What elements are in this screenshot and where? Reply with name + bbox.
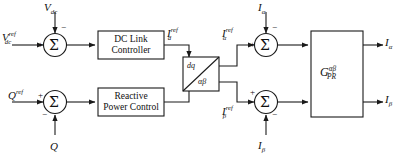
signal-label-vdc-feedback: Vdc (44, 2, 57, 16)
signal-label-q-ref: Qref (8, 89, 23, 101)
signal-label-ibeta-ref: Irefβ (222, 105, 226, 120)
ialpharef-superscript: ref (226, 26, 233, 33)
summing-junction-vdc-symbol: Σ (49, 38, 59, 52)
signal-label-ialpha-output: Iα (385, 37, 392, 51)
ibetaref-superscript: ref (226, 104, 233, 111)
summing-junction-q-symbol: Σ (49, 95, 59, 109)
block-label-reactive-power-control: Reactive Power Control (96, 91, 166, 112)
reactive-line2: Power Control (103, 102, 159, 112)
signal-label-vdc-ref: Vrefdc (2, 31, 11, 46)
block-label-dq: dq (187, 62, 195, 70)
idref-superscript: ref (171, 26, 178, 33)
dc-link-line2: Controller (111, 45, 150, 55)
vdc-subscript: dc (51, 8, 57, 15)
ialphafb-subscript: α (262, 8, 266, 15)
block-label-alphabeta: αβ (198, 78, 206, 86)
block-label-pr-controller: GαβPR (320, 66, 336, 81)
ibetafb-subscript: β (262, 146, 265, 153)
sign-q-negative: − (42, 110, 47, 119)
block-label-dc-link-controller: DC Link Controller (98, 34, 164, 55)
reactive-line1: Reactive (114, 91, 147, 101)
vdcref-subscript: dc (5, 38, 11, 45)
idref-subscript: d (168, 34, 171, 41)
ibetaref-subscript: β (223, 112, 226, 119)
ibetaout-subscript: β (389, 100, 392, 107)
wire-idref-to-dq (164, 45, 189, 57)
qref-base: Q (8, 89, 16, 101)
wire-ialpharef-to-sum (219, 45, 254, 66)
signal-label-ibeta-feedback: Iβ (258, 140, 265, 154)
pr-subscript: PR (327, 72, 336, 81)
dc-link-line1: DC Link (114, 34, 148, 44)
ialphaout-subscript: α (389, 43, 393, 50)
signal-label-ialpha-feedback: Iα (258, 2, 265, 16)
vdc-base: V (44, 1, 51, 13)
signal-label-q-feedback: Q (50, 141, 58, 152)
sign-ibeta-negative: − (272, 110, 277, 119)
signal-label-id-ref: Irefd (167, 27, 171, 42)
sign-vdc-negative: − (61, 23, 66, 32)
ialpharef-subscript: α (223, 34, 227, 41)
block-diagram-canvas: Σ Σ Σ Σ + − + − + − + − DC Link Controll… (0, 0, 401, 165)
sign-vdc-positive: + (38, 40, 43, 49)
signal-label-ibeta-output: Iβ (385, 94, 392, 108)
wire-ibetaref-to-sum (219, 82, 254, 102)
sign-ibeta-positive: + (250, 88, 255, 97)
qref-superscript: ref (16, 88, 23, 95)
sign-ialpha-positive: + (250, 40, 255, 49)
summing-junction-ialpha-symbol: Σ (260, 38, 270, 52)
block-rect-pr-controller (311, 31, 363, 117)
signal-label-ialpha-ref: Irefα (222, 27, 226, 42)
sign-ialpha-negative: − (272, 23, 277, 32)
vdcref-superscript: ref (9, 30, 16, 37)
q-base: Q (50, 140, 58, 152)
summing-junction-ibeta-symbol: Σ (260, 95, 270, 109)
sign-q-positive: + (38, 91, 43, 100)
